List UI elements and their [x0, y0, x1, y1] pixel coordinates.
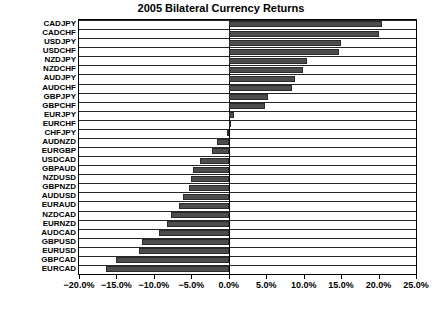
gridline [79, 147, 416, 148]
x-tick-label: 5.0% [256, 280, 277, 290]
bar-gbpcad [116, 257, 229, 263]
y-axis-label-nzdchf: NZDCHF [2, 64, 76, 73]
x-tick [191, 275, 192, 279]
bar-nzdjpy [229, 58, 307, 64]
bar-audchf [229, 85, 292, 91]
plot-area [78, 19, 417, 275]
y-axis-label-eurusd: EURUSD [2, 246, 76, 255]
y-axis-label-usdjpy: USDJPY [2, 37, 76, 46]
bar-cadchf [229, 31, 379, 37]
y-axis-label-audusd: AUDUSD [2, 191, 76, 200]
y-axis-label-euraud: EURAUD [2, 200, 76, 209]
x-tick [266, 275, 267, 279]
y-axis-label-audjpy: AUDJPY [2, 73, 76, 82]
y-axis-label-audchf: AUDCHF [2, 83, 76, 92]
bar-eurgbp [212, 148, 229, 154]
y-axis-label-eurjpy: EURJPY [2, 110, 76, 119]
bar-usdchf [229, 49, 339, 55]
bar-gbpaud [193, 167, 229, 173]
x-axis: −20.0%−15.0%−10.0%−5.0%0.0%5.0%10.0%15.0… [78, 275, 417, 309]
y-axis-label-eurchf: EURCHF [2, 119, 76, 128]
gridline [79, 156, 416, 157]
x-tick [229, 275, 230, 279]
x-tick [154, 275, 155, 279]
y-axis-label-nzdusd: NZDUSD [2, 173, 76, 182]
gridline [79, 192, 416, 193]
bar-gbpjpy [229, 94, 268, 100]
y-axis-label-eurgbp: EURGBP [2, 146, 76, 155]
y-axis-label-chfjpy: CHFJPY [2, 128, 76, 137]
bar-gbpnzd [189, 185, 229, 191]
bar-eurchf [229, 121, 231, 127]
bar-usdjpy [229, 40, 341, 46]
gridline [79, 211, 416, 212]
gridline [79, 183, 416, 184]
bar-audnzd [217, 139, 229, 145]
x-tick-label: 0.0% [219, 280, 240, 290]
gridline [79, 247, 416, 248]
gridline [79, 174, 416, 175]
x-tick-label: 20.0% [366, 280, 392, 290]
bar-usdcad [200, 158, 229, 164]
y-axis-category-labels: CADJPYCADCHFUSDJPYUSDCHFNZDJPYNZDCHFAUDJ… [0, 19, 76, 275]
x-tick-label: 25.0% [403, 280, 429, 290]
bar-audusd [183, 194, 229, 200]
bar-eurnzd [167, 221, 229, 227]
bar-audjpy [229, 76, 295, 82]
y-axis-label-nzdcad: NZDCAD [2, 210, 76, 219]
y-axis-label-eurnzd: EURNZD [2, 219, 76, 228]
gridline [79, 111, 416, 112]
gridline [79, 74, 416, 75]
bar-chfjpy [227, 130, 229, 136]
x-tick-label: 15.0% [328, 280, 354, 290]
y-axis-label-gbpnzd: GBPNZD [2, 182, 76, 191]
bar-euraud [179, 203, 228, 209]
y-axis-label-gbpchf: GBPCHF [2, 101, 76, 110]
bilateral-currency-returns-chart: 2005 Bilateral Currency Returns CADJPYCA… [0, 0, 442, 309]
y-axis-label-cadjpy: CADJPY [2, 19, 76, 28]
bar-eurjpy [229, 112, 234, 118]
y-axis-label-audnzd: AUDNZD [2, 137, 76, 146]
y-axis-label-usdchf: USDCHF [2, 46, 76, 55]
bar-cadjpy [229, 21, 383, 27]
y-axis-label-gbpusd: GBPUSD [2, 237, 76, 246]
bar-gbpchf [229, 103, 265, 109]
x-tick [79, 275, 80, 279]
y-axis-label-cadchf: CADCHF [2, 28, 76, 37]
y-axis-label-gbpaud: GBPAUD [2, 164, 76, 173]
gridline [79, 220, 416, 221]
bar-eurcad [106, 266, 229, 272]
chart-title: 2005 Bilateral Currency Returns [0, 2, 442, 14]
gridline [79, 229, 416, 230]
gridline [79, 165, 416, 166]
bar-audcad [159, 230, 229, 236]
bar-nzdusd [191, 176, 228, 182]
x-tick-label: −20.0% [64, 280, 95, 290]
x-tick-label: 10.0% [291, 280, 317, 290]
y-axis-label-usdcad: USDCAD [2, 155, 76, 164]
x-tick [379, 275, 380, 279]
y-axis-label-gbpcad: GBPCAD [2, 255, 76, 264]
x-tick-label: −10.0% [138, 280, 169, 290]
gridline [79, 120, 416, 121]
bar-nzdcad [171, 212, 229, 218]
gridline [79, 138, 416, 139]
gridline [79, 129, 416, 130]
y-axis-label-gbpjpy: GBPJPY [2, 92, 76, 101]
y-axis-label-audcad: AUDCAD [2, 228, 76, 237]
gridline [79, 201, 416, 202]
bar-nzdchf [229, 67, 303, 73]
x-tick-label: −5.0% [178, 280, 204, 290]
x-tick [116, 275, 117, 279]
bar-gbpusd [142, 239, 229, 245]
x-tick [341, 275, 342, 279]
x-tick [304, 275, 305, 279]
y-axis-label-eurcad: EURCAD [2, 264, 76, 273]
gridline [79, 238, 416, 239]
bar-eurusd [139, 248, 229, 254]
y-axis-label-nzdjpy: NZDJPY [2, 55, 76, 64]
x-tick-label: −15.0% [101, 280, 132, 290]
x-tick [416, 275, 417, 279]
